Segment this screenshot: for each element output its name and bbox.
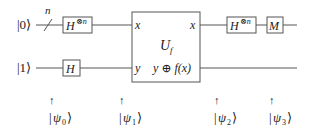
hadamard-gate: H [63, 60, 80, 76]
state-psi: ψ [53, 110, 62, 125]
state-ket-open: | [269, 110, 272, 125]
state-index: 3 [282, 118, 286, 127]
quantum-circuit-diagram: |0⟩ |1⟩ n H ⊗n H x y x U f y ⊕ f(x) H ⊗n [0, 0, 310, 139]
state-ket-close: ⟩ [232, 110, 237, 125]
gate-label: H [65, 19, 76, 33]
oracle-gate-uf: x y x U f y ⊕ f(x) [132, 12, 200, 82]
gate-label: M [268, 19, 280, 33]
state-psi: ψ [273, 110, 282, 125]
state-ket-open: | [119, 110, 122, 125]
oracle-input-y: y [134, 61, 141, 75]
state-index: 2 [227, 118, 231, 127]
hadamard-n-gate-right: H ⊗n [227, 17, 256, 33]
state-ket-close: ⟩ [137, 110, 142, 125]
state-psi: ψ [218, 110, 227, 125]
oracle-input-x: x [134, 18, 141, 32]
state-ket-open: | [49, 110, 52, 125]
up-arrow-icon: ↑ [214, 94, 220, 106]
state-marker-psi0: ↑ | ψ 0 ⟩ [49, 94, 72, 127]
up-arrow-icon: ↑ [49, 94, 55, 106]
gate-superscript: ⊗n [76, 17, 87, 26]
gate-label: H [229, 19, 240, 33]
state-index: 1 [132, 118, 136, 127]
input-label-one: |1⟩ [17, 60, 31, 75]
state-marker-psi2: ↑ | ψ 2 ⟩ [214, 94, 237, 127]
state-ket-close: ⟩ [67, 110, 72, 125]
state-ket-open: | [214, 110, 217, 125]
qubit-count-label: n [45, 4, 51, 16]
up-arrow-icon: ↑ [269, 94, 275, 106]
state-psi: ψ [123, 110, 132, 125]
input-label-zero: |0⟩ [17, 17, 31, 32]
state-ket-close: ⟩ [287, 110, 292, 125]
state-marker-psi1: ↑ | ψ 1 ⟩ [119, 94, 142, 127]
state-index: 0 [62, 118, 66, 127]
measurement-gate: M [267, 17, 283, 33]
up-arrow-icon: ↑ [119, 94, 125, 106]
gate-label: H [65, 62, 76, 76]
oracle-output-y: y ⊕ f(x) [152, 61, 191, 75]
oracle-output-x: x [189, 18, 196, 32]
gate-superscript: ⊗n [240, 17, 251, 26]
hadamard-n-gate-left: H ⊗n [63, 17, 92, 33]
state-marker-psi3: ↑ | ψ 3 ⟩ [269, 94, 292, 127]
